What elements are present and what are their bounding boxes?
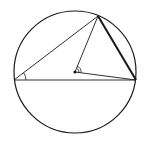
- radius-oc: [75, 72, 136, 80]
- center-point: [73, 70, 76, 73]
- chord-ab: [14, 16, 98, 80]
- chord-bc-bold: [98, 16, 136, 80]
- geometry-diagram: [0, 0, 148, 143]
- inscribed-angle-arc: [24, 73, 26, 80]
